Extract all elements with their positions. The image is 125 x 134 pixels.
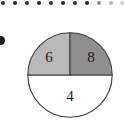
dotted-line-dot <box>13 1 17 5</box>
dotted-line-dot <box>1 1 5 5</box>
dotted-line-dot <box>73 1 77 5</box>
dotted-line-dot <box>97 1 101 5</box>
dotted-line-dot <box>120 1 124 5</box>
pie-slice-label-top-right: 8 <box>87 49 95 65</box>
bullet-dot-icon <box>0 36 5 45</box>
dotted-line-dot <box>109 1 113 5</box>
pie-slice-label-bottom-half: 4 <box>66 88 74 104</box>
dotted-line-dot <box>25 1 29 5</box>
pie-slice-label-top-left: 6 <box>45 49 53 65</box>
dotted-line-dot <box>61 1 65 5</box>
dotted-line-icon <box>0 0 125 7</box>
dotted-line-dot <box>37 1 41 5</box>
dotted-line-dot <box>85 1 89 5</box>
pie-chart: 6 8 4 <box>27 32 113 118</box>
dotted-line-dot <box>49 1 53 5</box>
figure-canvas: 6 8 4 <box>0 0 125 134</box>
